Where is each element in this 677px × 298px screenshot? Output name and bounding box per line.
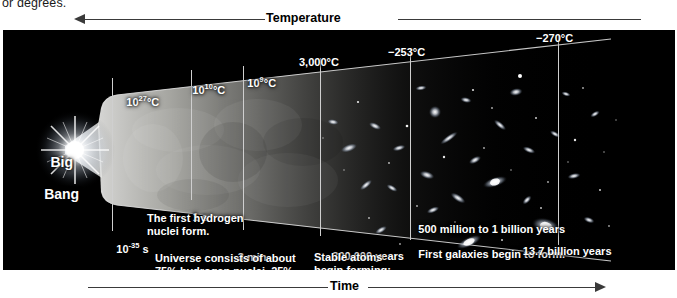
cut-off-caption-text: or degrees. (2, 0, 66, 10)
milestone-label-present: 13.7 billion years (present) (498, 232, 618, 270)
temp-mantissa-0: 10 (126, 96, 138, 108)
temperature-axis-rule-left (82, 19, 265, 20)
milestone-desc-1s: The first hydrogen nuclei form. (147, 212, 244, 237)
temperature-value-3: 3,000°C (299, 56, 339, 69)
temperature-axis: Temperature (0, 10, 677, 28)
time-axis-rule-left (88, 287, 328, 288)
temperature-value-5: −270°C (536, 32, 573, 45)
big-bang-label: Big Bang (20, 138, 80, 218)
temp-mantissa-2: 10 (247, 77, 259, 89)
diagram-panel: Big Bang 1027°C 1010°C 109°C 3,000°C −25… (3, 30, 675, 270)
time-unit-0: s (143, 243, 149, 255)
time-axis: Time (0, 278, 677, 296)
temperature-axis-label: Temperature (266, 11, 341, 25)
temperature-value-4: −253°C (388, 46, 425, 59)
time-axis-rule-right (368, 287, 596, 288)
big-bang-label-line1: Big (50, 154, 73, 170)
temperature-value-0: 1027°C (108, 83, 159, 121)
temp-exponent-1: 10 (205, 82, 213, 91)
milestone-desc-inflation: Inflation occurs. (98, 268, 159, 270)
temperature-axis-rule-right (398, 19, 641, 20)
tick-line-300000yr (320, 58, 321, 236)
milestone-time-present: 13.7 billion years (523, 245, 612, 257)
temperature-value-1: 1010°C (174, 71, 225, 109)
temp-unit-2: °C (264, 77, 276, 89)
time-mantissa-0: 10 (116, 243, 128, 255)
arrow-right-icon (595, 282, 606, 292)
temp-mantissa-1: 10 (192, 84, 204, 96)
temp-unit-1: °C (213, 84, 225, 96)
milestone-desc-3min: Universe consists of about 75% hydrogen … (155, 252, 302, 270)
temp-exponent-0: 27 (139, 94, 147, 103)
milestone-desc-300000yr: Stable atoms begin forming; limit of obs… (314, 251, 411, 270)
temp-unit-0: °C (147, 96, 159, 108)
big-bang-label-line2: Bang (44, 186, 79, 202)
figure-root: or degrees. Temperature (0, 0, 677, 298)
temperature-value-2: 109°C (229, 64, 276, 102)
time-exponent-0: -35 (129, 241, 140, 250)
time-axis-label: Time (330, 279, 359, 293)
